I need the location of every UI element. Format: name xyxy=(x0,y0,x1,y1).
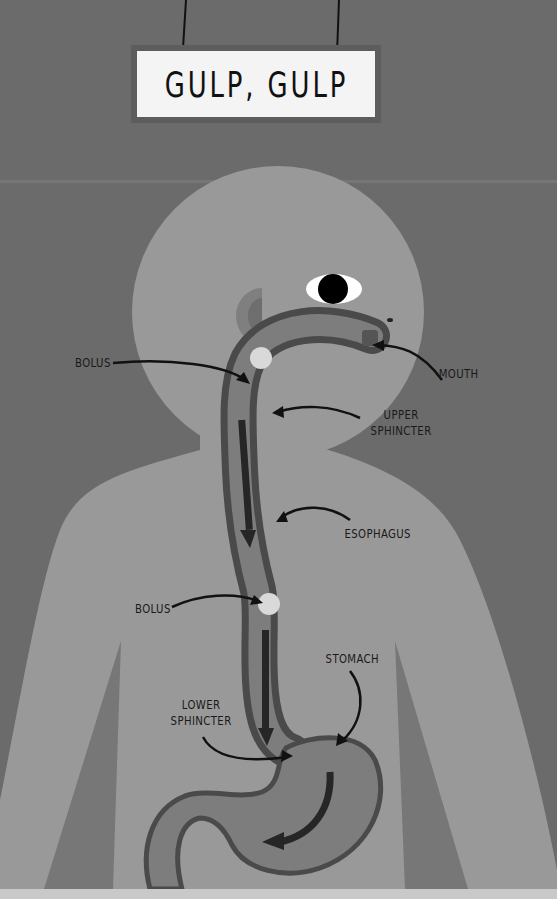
diagram-title: GULP, GULP xyxy=(164,64,348,105)
swallowing-diagram: GULP, GULP BOLUS MOUTH UPPER SPHINCTER E… xyxy=(0,0,557,899)
bolus-lower xyxy=(258,593,280,615)
label-bolus-lower: BOLUS xyxy=(135,601,171,617)
diagram-artwork xyxy=(0,0,557,899)
label-esophagus: ESOPHAGUS xyxy=(344,526,411,542)
bolus-upper xyxy=(250,347,272,369)
title-sign-face: GULP, GULP xyxy=(137,51,375,117)
label-mouth: MOUTH xyxy=(439,366,479,382)
label-stomach: STOMACH xyxy=(326,651,380,667)
nose-dot xyxy=(387,318,393,322)
label-lower-sphincter: LOWER SPHINCTER xyxy=(171,697,232,729)
label-upper-sphincter: UPPER SPHINCTER xyxy=(371,407,432,439)
eye-pupil xyxy=(318,274,348,304)
page-bottom-strip xyxy=(0,889,557,899)
title-sign: GULP, GULP xyxy=(131,45,381,123)
label-bolus-upper: BOLUS xyxy=(75,355,111,371)
